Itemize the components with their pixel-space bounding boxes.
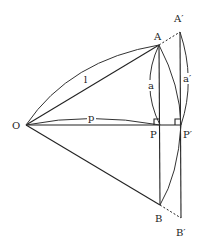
label-a: a	[148, 80, 154, 91]
dashed-A-A-prime	[159, 32, 180, 45]
label-A: A	[153, 31, 162, 42]
dashed-B-B-prime	[160, 205, 181, 218]
label-a-prime: a′	[183, 73, 192, 84]
label-B: B	[155, 213, 162, 224]
arc-A-to-P-prime	[159, 45, 181, 125]
label-p: p	[88, 112, 94, 123]
arc-P-prime-to-B	[160, 125, 181, 205]
geometry-diagram: O A A′ P P′ B B′ l p a a′	[0, 0, 203, 250]
segment-OB	[26, 125, 160, 205]
label-A-prime: A′	[173, 13, 184, 24]
label-l: l	[84, 74, 87, 85]
label-O: O	[12, 120, 20, 131]
label-P-prime: P′	[183, 129, 193, 140]
label-B-prime: B′	[176, 227, 186, 238]
label-P: P	[150, 129, 157, 140]
